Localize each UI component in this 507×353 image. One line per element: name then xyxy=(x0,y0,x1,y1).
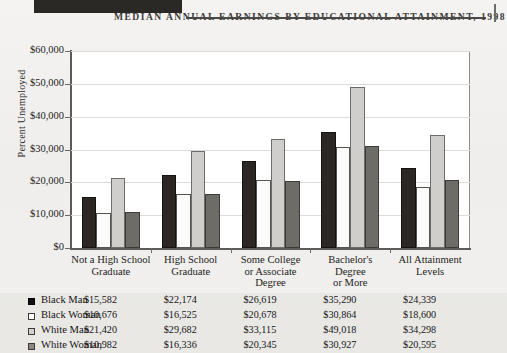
legend-row: Black Man$15,582$22,174$26,619$35,290$24… xyxy=(0,294,507,309)
bar xyxy=(416,187,431,248)
bar xyxy=(125,212,140,248)
legend-row: Black Woman$10,676$16,525$20,678$30,864$… xyxy=(0,309,507,324)
x-tick-mark xyxy=(231,248,232,253)
y-tick-label: $10,000 xyxy=(8,209,64,220)
bar xyxy=(285,181,300,248)
legend-value-cell: $22,174 xyxy=(164,294,197,305)
legend-swatch xyxy=(28,343,35,350)
x-category-label-line: All Attainment xyxy=(378,254,482,266)
bar xyxy=(111,178,126,248)
legend-value-cell: $20,345 xyxy=(244,339,277,350)
legend-value-cell: $29,682 xyxy=(164,324,197,335)
legend-value-cell: $21,420 xyxy=(84,324,117,335)
bar xyxy=(336,147,351,248)
y-tick-mark xyxy=(65,215,71,216)
bar xyxy=(162,175,177,248)
legend-value-cell: $49,018 xyxy=(323,324,356,335)
y-tick-mark xyxy=(65,84,71,85)
bar xyxy=(96,213,111,248)
x-tick-mark xyxy=(390,248,391,253)
bar xyxy=(445,180,460,248)
legend-swatch xyxy=(28,298,35,305)
bar xyxy=(430,135,445,248)
bar xyxy=(191,151,206,248)
bar xyxy=(242,161,257,248)
bar xyxy=(205,194,220,248)
legend-series-name: Black Man xyxy=(41,294,88,305)
bar-group xyxy=(82,51,140,248)
x-category-label-line: or More xyxy=(298,277,402,289)
x-category-label: All AttainmentLevels xyxy=(378,254,482,277)
y-tick-mark xyxy=(65,150,71,151)
x-tick-mark xyxy=(310,248,311,253)
y-axis-title: Percent Unemployed xyxy=(16,49,27,179)
bar xyxy=(321,132,336,248)
legend-swatch xyxy=(28,328,35,335)
legend-value-cell: $34,298 xyxy=(403,324,436,335)
legend-value-cell: $10,676 xyxy=(84,309,117,320)
bar xyxy=(256,180,271,248)
legend-data-table: Black Man$15,582$22,174$26,619$35,290$24… xyxy=(0,293,507,353)
y-tick-mark xyxy=(65,117,71,118)
bar xyxy=(271,139,286,248)
legend-value-cell: $10,982 xyxy=(84,339,117,350)
legend-value-cell: $33,115 xyxy=(244,324,277,335)
legend-value-cell: $20,595 xyxy=(403,339,436,350)
bar-group xyxy=(162,51,220,248)
bar xyxy=(350,87,365,248)
bar-group xyxy=(321,51,379,248)
bar xyxy=(365,146,380,248)
legend-value-cell: $30,864 xyxy=(323,309,356,320)
legend-value-cell: $35,290 xyxy=(323,294,356,305)
title-end-tick xyxy=(494,4,496,22)
bar xyxy=(82,197,97,248)
legend-value-cell: $16,525 xyxy=(164,309,197,320)
y-tick-mark xyxy=(65,51,71,52)
legend-series-name: White Man xyxy=(41,324,89,335)
legend-value-cell: $20,678 xyxy=(244,309,277,320)
legend-value-cell: $24,339 xyxy=(403,294,436,305)
bar xyxy=(176,194,191,248)
x-axis-line xyxy=(70,248,471,250)
bar xyxy=(401,168,416,248)
legend-value-cell: $18,600 xyxy=(403,309,436,320)
legend-swatch xyxy=(28,313,35,320)
legend-row: White Man$21,420$29,682$33,115$49,018$34… xyxy=(0,324,507,339)
legend-value-cell: $15,582 xyxy=(84,294,117,305)
bar-group xyxy=(401,51,459,248)
chart-page: Median Annual Earnings by Educational At… xyxy=(0,0,507,353)
x-category-label-line: Levels xyxy=(378,266,482,278)
y-tick-mark xyxy=(65,248,71,249)
legend-value-cell: $16,336 xyxy=(164,339,197,350)
legend-row: White Woman$10,982$16,336$20,345$30,927$… xyxy=(0,339,507,353)
legend-value-cell: $26,619 xyxy=(244,294,277,305)
bar-group xyxy=(242,51,300,248)
y-tick-label: $0 xyxy=(8,242,64,253)
title-underline-rule xyxy=(186,17,486,19)
x-tick-mark xyxy=(151,248,152,253)
legend-value-cell: $30,927 xyxy=(323,339,356,350)
y-tick-mark xyxy=(65,182,71,183)
